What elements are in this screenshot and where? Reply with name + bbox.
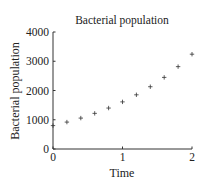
y-tick-label: 2000 <box>26 85 49 97</box>
plus-marker <box>190 52 194 56</box>
plus-marker <box>134 93 138 97</box>
chart-title: Bacterial population <box>75 14 169 27</box>
scatter-chart: Bacterial population 0100020003000400001… <box>0 0 206 185</box>
plus-marker <box>51 123 55 127</box>
data-points <box>51 52 194 128</box>
plus-marker <box>65 120 69 124</box>
axes: 01000200030004000012 <box>26 26 195 163</box>
y-tick-label: 4000 <box>26 26 49 38</box>
x-axis-label: Time <box>110 166 135 180</box>
x-tick-label: 0 <box>50 151 56 163</box>
plus-marker <box>79 116 83 120</box>
y-tick-label: 0 <box>43 143 49 155</box>
y-axis-label: Bacterial population <box>8 42 22 140</box>
plus-marker <box>106 106 110 110</box>
x-tick-label: 1 <box>120 151 126 163</box>
plus-marker <box>148 85 152 89</box>
plus-marker <box>93 111 97 115</box>
y-tick-label: 1000 <box>26 114 49 126</box>
plus-marker <box>120 100 124 104</box>
x-tick-label: 2 <box>189 151 195 163</box>
plus-marker <box>162 75 166 79</box>
y-tick-label: 3000 <box>26 55 49 67</box>
plus-marker <box>176 64 180 68</box>
